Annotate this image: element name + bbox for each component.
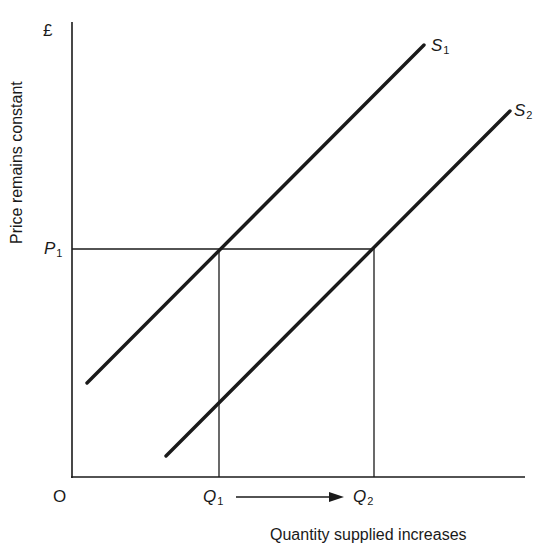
q1-label: Q1 bbox=[203, 487, 223, 507]
q1-label-sub: 1 bbox=[217, 495, 223, 507]
s2-label: S2 bbox=[514, 101, 532, 121]
arrowhead-icon bbox=[329, 492, 344, 502]
s1-label-main: S bbox=[431, 36, 442, 55]
s1-label-sub: 1 bbox=[443, 44, 449, 56]
p1-label: P1 bbox=[44, 239, 62, 259]
origin-label: O bbox=[53, 487, 66, 507]
q2-label: Q2 bbox=[353, 487, 373, 507]
supply-shift-diagram bbox=[0, 0, 533, 547]
q2-label-main: Q bbox=[353, 487, 366, 506]
s1-label: S1 bbox=[431, 36, 449, 56]
s2-label-main: S bbox=[514, 101, 525, 120]
x-axis-title: Quantity supplied increases bbox=[270, 526, 467, 544]
q1-label-main: Q bbox=[203, 487, 216, 506]
q2-label-sub: 2 bbox=[367, 495, 373, 507]
p1-label-sub: 1 bbox=[56, 247, 62, 259]
s2-label-sub: 2 bbox=[526, 109, 532, 121]
supply-curve-s2 bbox=[166, 111, 510, 456]
p1-label-main: P bbox=[44, 239, 55, 258]
y-axis-title: Price remains constant bbox=[8, 94, 26, 244]
y-axis-unit-label: £ bbox=[43, 21, 52, 41]
